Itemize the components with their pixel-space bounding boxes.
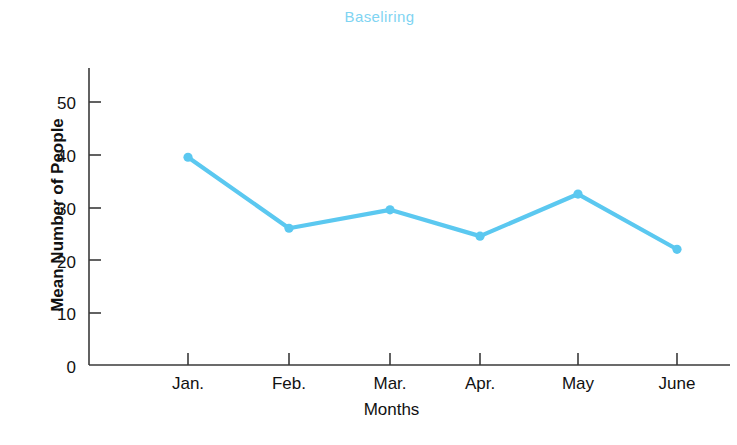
y-axis bbox=[89, 68, 101, 365]
data-point-june bbox=[672, 245, 681, 254]
x-axis bbox=[89, 353, 730, 365]
data-point-may bbox=[573, 189, 582, 198]
data-point-feb bbox=[284, 224, 293, 233]
data-point-jan bbox=[183, 153, 192, 162]
data-point-apr bbox=[475, 232, 484, 241]
line-chart: Baseliring Mean Number of People Months … bbox=[0, 0, 737, 445]
data-point-markers bbox=[183, 153, 681, 254]
plot-area bbox=[0, 0, 737, 445]
data-point-mar bbox=[385, 205, 394, 214]
data-series-line bbox=[188, 157, 677, 249]
